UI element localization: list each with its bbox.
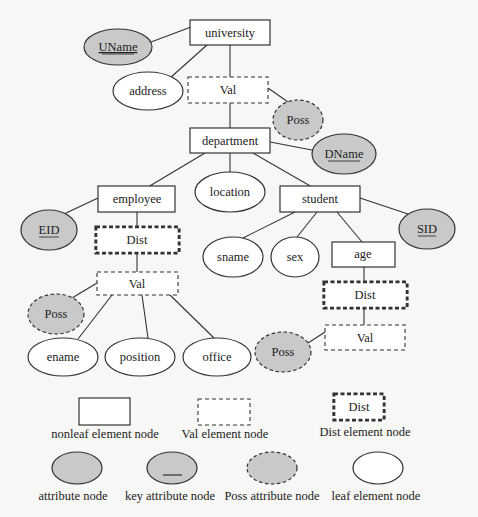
node-uname-key-attribute: UName bbox=[84, 29, 152, 65]
node-label: department bbox=[202, 134, 259, 148]
legend-poss-attribute: Poss attribute node bbox=[224, 452, 320, 503]
node-age: age bbox=[332, 242, 395, 267]
legend-label: Val element node bbox=[182, 427, 269, 441]
node-label: ename bbox=[47, 350, 80, 364]
node-dname-key-attribute: DName bbox=[312, 134, 376, 174]
node-label: sex bbox=[287, 250, 304, 264]
legend-leaf: leaf element node bbox=[332, 452, 421, 503]
node-label: location bbox=[210, 185, 251, 199]
legend-label: nonleaf element node bbox=[51, 427, 159, 441]
node-eid-key-attribute: EID bbox=[21, 210, 77, 250]
edge-employee-eid bbox=[64, 198, 98, 214]
legend-label: key attribute node bbox=[125, 489, 216, 503]
node-label: Val bbox=[357, 331, 374, 345]
node-label: Val bbox=[220, 83, 237, 97]
node-location-leaf: location bbox=[195, 172, 265, 212]
node-label: SID bbox=[417, 222, 437, 236]
node-label: UName bbox=[99, 40, 138, 54]
node-label: employee bbox=[113, 192, 162, 206]
edge-student-sex bbox=[297, 212, 317, 237]
node-label: address bbox=[129, 84, 167, 98]
legend-label: Dist element node bbox=[320, 425, 411, 439]
legend-glyph: Dist bbox=[349, 400, 370, 414]
node-label: age bbox=[354, 247, 372, 261]
node-address-leaf: address bbox=[113, 72, 183, 110]
edge-department-dname bbox=[270, 142, 312, 150]
legend-dist: Dist Dist element node bbox=[320, 394, 411, 439]
edge-val-office bbox=[170, 295, 214, 338]
node-label: position bbox=[120, 350, 161, 364]
node-label: Dist bbox=[355, 288, 376, 302]
node-label: office bbox=[203, 350, 232, 364]
edge-university-uname bbox=[151, 27, 191, 42]
node-poss-age: Poss bbox=[255, 332, 311, 372]
node-label: Poss bbox=[45, 307, 68, 321]
node-position-leaf: position bbox=[105, 338, 175, 376]
node-dist-employee: Dist bbox=[96, 227, 179, 253]
node-label: Val bbox=[129, 277, 146, 291]
node-dist-age: Dist bbox=[324, 282, 407, 308]
edge-val-poss-employee bbox=[72, 283, 97, 298]
edge-department-employee bbox=[148, 153, 205, 187]
legend-nonleaf: nonleaf element node bbox=[51, 398, 159, 441]
xml-schema-tree-diagram: university UName address Val Poss depart… bbox=[0, 0, 478, 517]
node-label: sname bbox=[217, 250, 249, 264]
node-label: Dist bbox=[127, 233, 148, 247]
edge-val-position bbox=[142, 295, 148, 338]
legend-attribute: attribute node bbox=[38, 452, 108, 503]
node-val-university: Val bbox=[188, 77, 268, 103]
node-employee: employee bbox=[98, 186, 175, 212]
legend: nonleaf element node Val element node Di… bbox=[38, 394, 420, 503]
node-val-employee: Val bbox=[97, 272, 178, 295]
node-student: student bbox=[280, 186, 360, 212]
node-ename-leaf: ename bbox=[28, 338, 98, 376]
node-sex-leaf: sex bbox=[271, 237, 319, 277]
node-label: Poss bbox=[287, 113, 310, 127]
legend-val: Val element node bbox=[182, 399, 269, 441]
node-label: Poss bbox=[272, 345, 295, 359]
legend-key-attribute: key attribute node bbox=[125, 452, 216, 503]
node-label: university bbox=[205, 26, 256, 40]
edge-student-sname bbox=[243, 212, 295, 238]
edge-student-sid bbox=[360, 198, 408, 214]
legend-label: Poss attribute node bbox=[224, 489, 320, 503]
node-label: student bbox=[302, 192, 339, 206]
node-val-age: Val bbox=[325, 325, 405, 350]
node-university: university bbox=[190, 20, 270, 45]
legend-label: leaf element node bbox=[332, 489, 421, 503]
edge-university-address bbox=[170, 45, 207, 78]
node-label: DName bbox=[325, 147, 364, 161]
edge-department-student bbox=[253, 153, 312, 187]
node-sname-leaf: sname bbox=[203, 237, 263, 277]
edge-val-poss bbox=[268, 88, 288, 102]
node-sid-key-attribute: SID bbox=[399, 209, 455, 249]
edge-student-age bbox=[337, 212, 362, 242]
node-poss-employee: Poss bbox=[28, 294, 84, 334]
node-label: EID bbox=[39, 223, 60, 237]
legend-label: attribute node bbox=[38, 489, 108, 503]
node-poss-university: Poss bbox=[273, 100, 323, 140]
node-office-leaf: office bbox=[183, 338, 251, 376]
node-department: department bbox=[190, 128, 270, 153]
